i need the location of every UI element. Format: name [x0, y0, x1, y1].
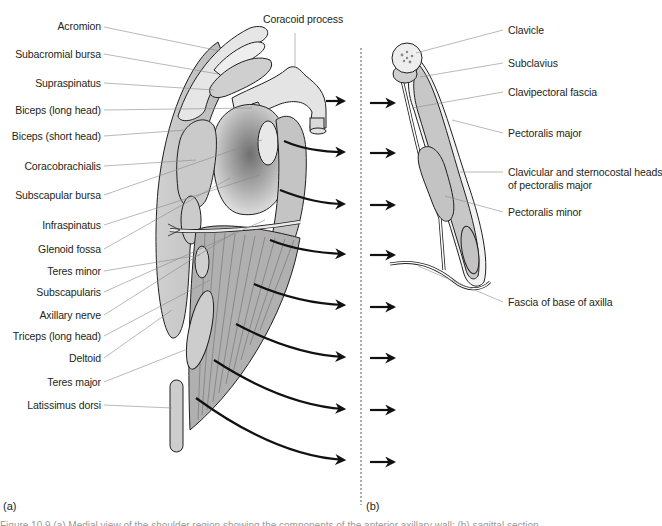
- panel-b-drawing: [390, 43, 490, 289]
- label-pectoralis-minor: Pectoralis minor: [508, 206, 582, 219]
- label-subacromial-bursa: Subacromial bursa: [15, 48, 101, 61]
- label-pectoralis-major: Pectoralis major: [508, 127, 582, 140]
- label-of-pectoralis-major: of pectoralis major: [508, 179, 592, 192]
- label-supraspinatus: Supraspinatus: [35, 77, 101, 90]
- subscapular-bursa-shape: [258, 121, 278, 165]
- label-subscapularis: Subscapularis: [36, 286, 101, 299]
- teres-minor-shape: [195, 246, 209, 278]
- label-clavicle: Clavicle: [508, 24, 544, 37]
- label-clavipectoral-fascia: Clavipectoral fascia: [508, 86, 597, 99]
- label-clavicular-sternocostal-heads: Clavicular and sternocostal heads: [508, 166, 662, 179]
- label-teres-major: Teres major: [47, 376, 101, 389]
- label-acromion: Acromion: [57, 20, 101, 33]
- panel-a-drawing: [156, 26, 326, 452]
- label-latissimus-dorsi: Latissimus dorsi: [27, 399, 101, 412]
- label-infraspinatus: Infraspinatus: [42, 219, 101, 232]
- label-subclavius: Subclavius: [508, 57, 558, 70]
- latissimus-dorsi-shape: [170, 380, 183, 452]
- label-glenoid-fossa: Glenoid fossa: [38, 243, 101, 256]
- label-teres-minor: Teres minor: [47, 265, 101, 278]
- label-coracobrachialis: Coracobrachialis: [24, 160, 101, 173]
- label-biceps-short-head: Biceps (short head): [12, 130, 101, 143]
- label-coracoid-process: Coracoid process: [263, 13, 343, 26]
- label-biceps-long-head: Biceps (long head): [15, 104, 101, 117]
- projection-arrows-b: [370, 103, 394, 462]
- label-deltoid: Deltoid: [69, 352, 101, 365]
- label-triceps-long-head: Triceps (long head): [13, 330, 101, 343]
- panel-a-tag: (a): [3, 500, 16, 512]
- panel-b-tag: (b): [366, 500, 379, 512]
- figure-caption-cropped: Figure 10.9 (a) Medial view of the shoul…: [0, 519, 657, 526]
- label-axillary-nerve: Axillary nerve: [39, 309, 101, 322]
- label-fascia-base-axilla: Fascia of base of axilla: [508, 296, 612, 309]
- label-subscapular-bursa: Subscapular bursa: [15, 189, 101, 202]
